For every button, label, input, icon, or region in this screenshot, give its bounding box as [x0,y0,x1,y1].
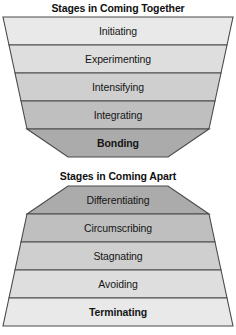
coming-together-funnel: Initiating Experimenting Intensifying In… [0,16,236,159]
coming-together-title: Stages in Coming Together [0,2,236,14]
coming-apart-pyramid: Differentiating Circumscribing Stagnatin… [0,184,236,329]
funnel-stage-label-5: Bonding [0,137,236,149]
funnel-band-label-group: Initiating Experimenting Intensifying In… [0,16,236,159]
coming-apart-diagram: Stages in Coming Apart Differentiating C… [0,168,236,335]
pyramid-stage-label-5: Terminating [0,306,236,318]
pyramid-stage-label-3: Stagnating [0,250,236,262]
pyramid-stage-label-4: Avoiding [0,278,236,290]
funnel-stage-label-1: Initiating [0,25,236,37]
funnel-stage-label-2: Experimenting [0,53,236,65]
funnel-stage-label-4: Integrating [0,109,236,121]
coming-apart-title: Stages in Coming Apart [0,170,236,182]
pyramid-stage-label-2: Circumscribing [0,222,236,234]
pyramid-band-label-group: Differentiating Circumscribing Stagnatin… [0,184,236,329]
pyramid-stage-label-1: Differentiating [0,194,236,206]
coming-together-diagram: Stages in Coming Together Initiating Exp… [0,0,236,165]
funnel-stage-label-3: Intensifying [0,81,236,93]
